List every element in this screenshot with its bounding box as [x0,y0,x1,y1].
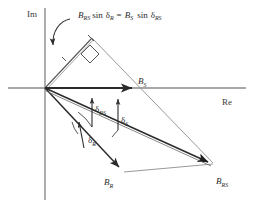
triangle-left-leg-shadow [47,39,94,89]
svg-text:BR: BR [104,177,114,189]
svg-text:δS: δS [121,115,128,127]
figure-root: BRSsinδR=BSsinδRS Im Re BS BR BRS [0,0,253,206]
svg-text:δRS: δRS [95,104,106,116]
label-br-sub: R [109,183,114,189]
label-delta-r: δR [88,135,96,147]
real-axis-label: Re [222,97,232,107]
svg-text:BRSsinδR=BSsinδRS: BRSsinδR=BSsinδRS [78,10,162,21]
eq-sin-2: sin [137,10,148,20]
callout-arrow-icon [53,19,70,45]
parallel-edge [46,91,211,166]
svg-text:BRS: BRS [216,176,228,188]
axes-group [8,8,246,200]
delta-r-arc [72,122,78,134]
vector-br [45,88,119,167]
imaginary-axis-label: Im [27,9,37,19]
equation-label: BRSsinδR=BSsinδRS [78,10,162,21]
label-br: BR [104,177,114,189]
delta-s-arc [112,130,118,137]
eq-delta-1-sub: R [109,15,114,21]
triangle-long-side [92,38,213,163]
parallel-edge-line [46,91,211,166]
angle-pointer-delta-rs [78,98,92,127]
eq-delta-2-sub: RS [154,15,162,21]
triangle-apex-cap [88,35,94,41]
vector-br-line [45,88,119,167]
eq-rhs-sub: S [130,15,133,21]
triangle-leg-tick [62,57,66,61]
label-brs-sub: RS [221,182,229,188]
label-delta-s: δS [121,115,128,127]
label-delta-rs: δRS [95,104,106,116]
label-bs-sub: S [144,82,147,88]
label-brs: BRS [216,176,228,188]
label-delta-s-sub: S [125,121,128,127]
svg-text:BS: BS [138,76,147,88]
eq-equals: = [117,10,122,20]
right-angle-marker [81,45,99,63]
angle-pointer-delta-r [72,122,84,148]
svg-text:δR: δR [88,135,96,147]
eq-sin-1: sin [92,10,103,20]
triangle-base-closure [124,164,213,172]
label-delta-rs-sub: RS [98,110,106,116]
label-bs: BS [138,76,147,88]
angle-pointer-delta-s [112,99,118,137]
phasor-diagram-svg: BRSsinδR=BSsinδRS Im Re BS BR BRS [0,0,253,206]
label-delta-r-sub: R [91,141,96,147]
triangle-left-leg [45,38,92,88]
eq-lhs-sub: RS [83,15,91,21]
base-line [124,164,213,172]
